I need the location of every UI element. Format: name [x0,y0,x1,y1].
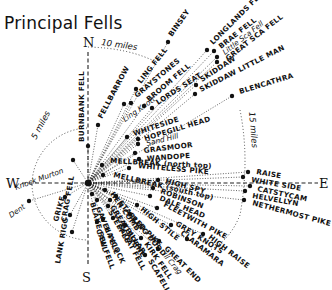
label-15-miles: 15 miles [247,111,260,148]
fell-label-blencathra: BLENCATHRA [238,71,295,96]
summit-dot-blencathra [230,94,234,98]
summit-dot-whiteside [125,135,129,139]
summit-dot-brae-fell [212,49,216,53]
summit-dot-binsey [166,40,170,44]
fell-label-burnbank-fell: BURNBANK FELL [77,71,86,142]
compass-west: W [6,176,20,191]
summit-dot-catstycam [248,184,252,188]
fell-label-lank-rigg: LANK RIGG [53,217,70,265]
summit-dot-helvellyn [243,189,247,193]
summit-dot-sand-hill [136,142,140,146]
fell-label-knock-murton: Knock Murton [14,166,65,192]
summit-dot-lank-rigg [70,230,74,234]
fell-direction-map: BURNBANK FELLFELLBARROWLING FELLBINSEYLi… [0,0,332,290]
summit-dot-high-stile [135,203,139,207]
summit-dot-embleton-eating-knott [122,102,126,106]
summit-dot-hopegill-head [136,137,140,141]
ray-lank-rigg [72,183,88,232]
summit-dot-little-sca-fell [215,55,219,59]
principal-fells-diagram: Principal Fells BURNBANK FELLFELLBARROWL… [0,0,332,290]
summit-dot-whiteless-pike [127,166,131,170]
fell-label-dent: Dent [7,201,28,219]
summit-dot-grasmoor [133,151,137,155]
summit-dot-nethermost-pike [242,198,246,202]
summit-dot-longlands-fell [205,48,209,52]
summit-dot-fleetwith-pike [155,206,159,210]
summit-dot-mellbreak-south-top [101,173,105,177]
compass-east: E [319,176,329,191]
label-10-miles: 10 miles [101,37,139,52]
summit-dot-dale-head [148,194,152,198]
summit-dot-burnbank-fell [86,144,90,148]
summit-dot-mellbreak-north-top [100,163,104,167]
summit-dot-graystones [129,101,133,105]
summit-dot-raise [246,170,250,174]
summit-dot-blake-fell [90,192,94,196]
summit-dot-skiddaw-little-man [193,92,197,96]
summit-dot-fellbarrow [96,123,100,127]
fell-label-binsey: BINSEY [166,7,192,38]
fell-label-fellbarrow: FELLBARROW [96,64,131,120]
summit-dot-white-side [241,175,245,179]
diagram-title: Principal Fells [4,13,122,33]
label-5-miles: 5 miles [29,109,53,141]
ray-fellbarrow [88,125,98,183]
compass-south: S [82,270,91,285]
centre-hub [85,180,91,186]
ray-mellbreak-north-top [88,165,102,183]
summit-dot-hen-comb [103,188,107,192]
summit-dot-dent [27,199,31,203]
compass-north: N [83,35,94,50]
summit-dot-knock-murton [71,158,75,162]
